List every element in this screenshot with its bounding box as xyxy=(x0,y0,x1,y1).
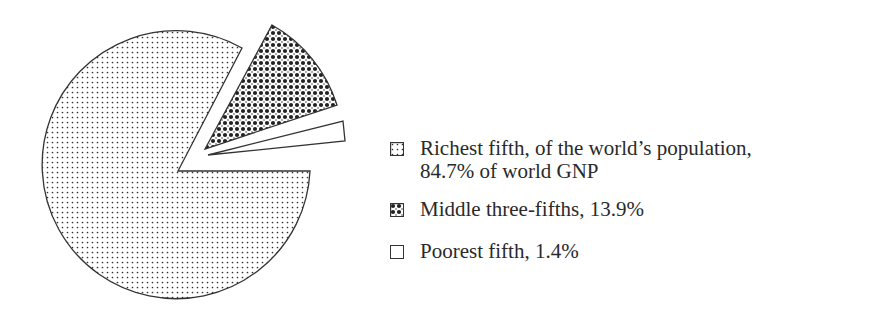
pie-chart xyxy=(0,0,370,333)
legend-label-poorest: Poorest fifth, 1.4% xyxy=(420,240,579,263)
legend-label-middle: Middle three-fifths, 13.9% xyxy=(420,198,644,221)
light-dot-swatch-icon xyxy=(390,142,404,156)
legend: Richest fifth, of the world’s population… xyxy=(390,0,884,333)
legend-item-richest: Richest fifth, of the world’s population… xyxy=(390,137,752,183)
legend-item-poorest: Poorest fifth, 1.4% xyxy=(390,240,579,263)
legend-value-richest: 84.7% of world GNP xyxy=(420,160,752,183)
empty-swatch-icon xyxy=(390,245,404,259)
dark-dot-swatch-icon xyxy=(390,203,404,217)
legend-label-richest: Richest fifth, of the world’s population… xyxy=(420,137,752,160)
legend-item-middle: Middle three-fifths, 13.9% xyxy=(390,198,644,221)
